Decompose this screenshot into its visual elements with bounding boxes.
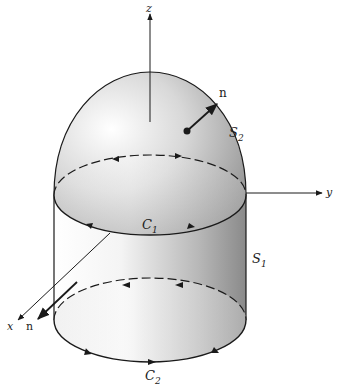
dome-normal-point (184, 128, 191, 135)
z-axis-label: z (145, 2, 152, 15)
surface-diagram: z n S2 y C1 x n S1 C2 (0, 0, 342, 387)
y-axis-label: y (325, 186, 333, 199)
cylinder-label: S1 (252, 251, 267, 269)
x-axis-label: x (7, 320, 14, 333)
cylinder-normal-label: n (26, 320, 33, 333)
curve-c2-label: C2 (145, 368, 161, 386)
dome-normal-label: n (219, 86, 227, 100)
